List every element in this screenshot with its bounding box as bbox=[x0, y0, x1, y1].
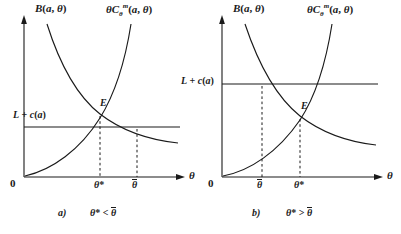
figure-vector-layer bbox=[0, 0, 401, 234]
panel-a-caption-relation: θ* < θ bbox=[90, 208, 116, 218]
panel-a-intersection-label: E bbox=[100, 98, 107, 108]
panel-b-curves bbox=[222, 24, 378, 176]
panel-b-caption-letter: b) bbox=[252, 208, 260, 218]
figure-two-panel-diagram: B(a, θ) θCθm(a, θ) L + c(a) E 0 θ* θ θ a… bbox=[0, 0, 401, 234]
panel-a-horizontal-line-label: L + c(a) bbox=[13, 110, 46, 120]
panel-a-curve-label-benefit: B(a, θ) bbox=[35, 3, 66, 14]
panel-a-origin-label: 0 bbox=[10, 178, 16, 189]
panel-a-x-axis-label: θ bbox=[189, 170, 195, 181]
panel-a-tick-theta-bar: θ bbox=[132, 180, 137, 190]
panel-b-curve-label-benefit: B(a, θ) bbox=[233, 3, 264, 14]
panel-b-caption-relation: θ* > θ bbox=[286, 208, 312, 218]
panel-b-tick-theta-star: θ* bbox=[294, 180, 304, 190]
panel-a-curve-label-marginal-cost: θCθm(a, θ) bbox=[106, 3, 152, 18]
panel-b-curve-label-marginal-cost: θCθm(a, θ) bbox=[307, 3, 353, 18]
panel-b-intersection-label: E bbox=[301, 101, 308, 111]
panel-b-horizontal-line-label: L + c(a) bbox=[181, 76, 214, 86]
panel-a-tick-theta-star: θ* bbox=[94, 180, 104, 190]
panel-b-axes bbox=[219, 15, 383, 180]
panel-b-x-axis-label: θ bbox=[387, 170, 393, 181]
panel-b-tick-theta-bar: θ bbox=[257, 180, 262, 190]
panel-b-origin-label: 0 bbox=[208, 178, 214, 189]
panel-a-caption-letter: a) bbox=[58, 208, 66, 218]
